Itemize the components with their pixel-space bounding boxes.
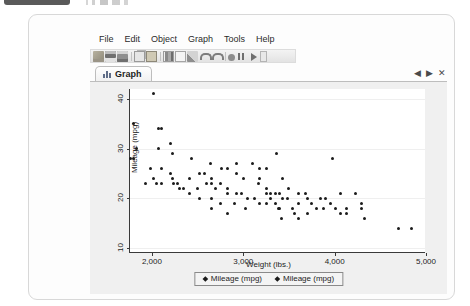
data-point [257, 182, 260, 185]
more-icon[interactable] [260, 51, 267, 62]
x-tick-mark [426, 253, 427, 256]
data-point [293, 212, 296, 215]
menu-item-graph[interactable]: Graph [188, 33, 213, 46]
cropped-header-bar [4, 0, 70, 5]
data-point [235, 162, 238, 165]
menu-item-help[interactable]: Help [256, 33, 275, 46]
y-tick-mark [127, 248, 130, 249]
data-point [274, 202, 277, 205]
data-point [244, 207, 247, 210]
data-point [155, 182, 158, 185]
menu-item-tools[interactable]: Tools [224, 33, 245, 46]
grid-line [130, 99, 425, 100]
toolbar-separator [225, 52, 226, 61]
page-top-sliver [0, 0, 470, 13]
legend-label: Mileage (mpg) [211, 273, 262, 285]
data-point [339, 192, 342, 195]
data-point [410, 227, 413, 230]
bar-chart-icon [103, 70, 111, 78]
data-point [190, 157, 193, 160]
data-point [278, 207, 281, 210]
data-point [169, 172, 172, 175]
data-point [329, 202, 332, 205]
data-editor-icon[interactable] [175, 51, 186, 62]
y-tick-label: 10 [116, 241, 125, 254]
legend-entry[interactable]: Mileage (mpg) [203, 273, 262, 285]
data-point [258, 167, 261, 170]
print-icon[interactable] [117, 51, 128, 62]
data-point [315, 207, 318, 210]
y-tick-label: 30 [116, 142, 125, 155]
data-point [331, 157, 334, 160]
data-point [306, 197, 309, 200]
x-tick-mark [243, 253, 244, 256]
screenshot-card: File Edit Object Graph Tools Help [28, 14, 455, 300]
data-point [219, 202, 222, 205]
data-point [297, 217, 300, 220]
legend-entry[interactable]: Mileage (mpg) [275, 273, 334, 285]
data-point [160, 167, 163, 170]
data-point [363, 217, 366, 220]
data-point [210, 182, 213, 185]
paste-icon[interactable] [146, 51, 157, 62]
open-folder-icon[interactable] [93, 51, 104, 62]
data-point [286, 197, 289, 200]
data-point [172, 182, 175, 185]
undo-icon[interactable] [199, 51, 210, 62]
menu-item-edit[interactable]: Edit [125, 33, 141, 46]
data-point [306, 212, 309, 215]
data-point [240, 192, 243, 195]
data-point [205, 182, 208, 185]
data-point [345, 207, 348, 210]
grid-line [130, 149, 425, 150]
menu-item-object[interactable]: Object [151, 33, 177, 46]
data-point [269, 197, 272, 200]
data-point [265, 167, 268, 170]
tab-next-button[interactable]: ▶ [426, 66, 433, 81]
data-point [319, 197, 322, 200]
y-tick-label: 40 [116, 92, 125, 105]
tab-graph[interactable]: Graph [95, 66, 152, 81]
stata-graph-window: File Edit Object Graph Tools Help [67, 30, 447, 298]
data-point [310, 202, 313, 205]
y-axis-label: Mileage (mpg) [130, 118, 139, 178]
tab-graph-label: Graph [115, 67, 142, 82]
redo-icon[interactable] [211, 51, 222, 62]
data-point [242, 177, 245, 180]
data-point [275, 152, 278, 155]
data-point [210, 197, 213, 200]
menu-item-file[interactable]: File [99, 33, 114, 46]
data-point [235, 192, 238, 195]
data-point [209, 162, 212, 165]
data-point [339, 212, 342, 215]
data-point [171, 177, 174, 180]
run-icon[interactable] [248, 51, 259, 62]
y-tick-label: 20 [116, 191, 125, 204]
data-point [304, 192, 307, 195]
data-point [149, 167, 152, 170]
data-point [265, 192, 268, 195]
legend[interactable]: Mileage (mpg)Mileage (mpg) [194, 272, 343, 286]
toolbar-separator [160, 52, 161, 61]
data-point [188, 177, 191, 180]
pause-icon[interactable] [236, 51, 247, 62]
graph-panel: 10203040 2,0003,0004,0005,000 Mileage (m… [90, 82, 447, 294]
new-graph-icon[interactable] [163, 51, 174, 62]
data-point [297, 192, 300, 195]
stop-icon[interactable] [228, 54, 235, 61]
menu-bar: File Edit Object Graph Tools Help [99, 33, 275, 46]
tab-prev-button[interactable]: ◀ [414, 66, 421, 81]
data-point [178, 187, 181, 190]
data-point [171, 152, 174, 155]
tab-close-button[interactable]: ✕ [438, 66, 446, 81]
data-browser-icon[interactable] [187, 51, 198, 62]
toolbar [90, 49, 296, 63]
grid-line [130, 248, 425, 249]
save-icon[interactable] [105, 51, 116, 62]
data-point [360, 202, 363, 205]
data-point [176, 182, 179, 185]
data-point [226, 167, 229, 170]
data-point [169, 142, 172, 145]
data-point [196, 187, 199, 190]
copy-icon[interactable] [134, 51, 145, 62]
